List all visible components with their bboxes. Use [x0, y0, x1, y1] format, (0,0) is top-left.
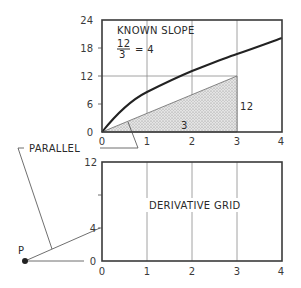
- fraction-numerator: 12: [117, 38, 130, 49]
- x-tick-1: 1: [144, 266, 150, 277]
- parallel-annotation: PARALLEL: [18, 122, 138, 249]
- parallel-label: PARALLEL: [29, 143, 80, 154]
- bottom-plot: DERIVATIVE GRID 12 4 0 0 1 2 3 4: [84, 157, 284, 277]
- y-tick-0: 0: [87, 127, 93, 138]
- slope-triangle: [102, 76, 237, 132]
- derivative-diagram: 0 6 12 18 24 0 1 2 3 4 KNOWN SLOPE 12 3 …: [0, 0, 301, 288]
- y-tick-12: 12: [84, 157, 97, 168]
- x-tick-1: 1: [144, 136, 150, 147]
- y-tick-18: 18: [80, 43, 93, 54]
- y-tick-0: 0: [90, 256, 96, 267]
- known-slope-label: KNOWN SLOPE: [117, 25, 195, 36]
- x-tick-0: 0: [99, 136, 105, 147]
- pole-construction: P: [18, 228, 100, 264]
- fraction-result: = 4: [135, 44, 154, 55]
- x-tick-2: 2: [189, 136, 195, 147]
- fraction-denominator: 3: [119, 49, 126, 60]
- x-tick-0: 0: [99, 266, 105, 277]
- run-label: 3: [181, 120, 188, 131]
- x-tick-4: 4: [278, 136, 284, 147]
- x-tick-3: 3: [234, 136, 240, 147]
- pole-point: [22, 258, 28, 264]
- y-tick-6: 6: [87, 99, 93, 110]
- x-tick-4: 4: [278, 266, 284, 277]
- top-plot: 0 6 12 18 24 0 1 2 3 4 KNOWN SLOPE 12 3 …: [80, 15, 284, 147]
- derivative-grid-title: DERIVATIVE GRID: [149, 200, 240, 211]
- parallel-leader-left: [18, 148, 52, 249]
- pole-label: P: [18, 245, 24, 256]
- y-tick-12: 12: [80, 71, 93, 82]
- x-tick-2: 2: [189, 266, 195, 277]
- rise-label: 12: [240, 101, 253, 112]
- x-tick-3: 3: [234, 266, 240, 277]
- y-tick-24: 24: [80, 15, 93, 26]
